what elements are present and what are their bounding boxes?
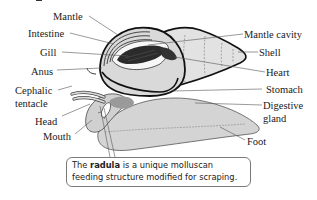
label-mantle: Mantle: [53, 11, 83, 22]
label-mantle-cavity: Mantle cavity: [244, 29, 302, 40]
label-intestine: Intestine: [28, 28, 64, 39]
label-cephalic: Cephalic: [15, 85, 52, 96]
label-head: Head: [35, 116, 57, 127]
label-tentacle: tentacle: [15, 98, 48, 109]
callout-bold-term: radula: [90, 160, 120, 170]
label-mouth: Mouth: [43, 131, 71, 142]
callout-pre: The: [72, 160, 90, 170]
label-gland: gland: [263, 113, 286, 124]
label-heart: Heart: [266, 67, 289, 78]
label-shell: Shell: [259, 47, 281, 58]
label-gill: Gill: [40, 47, 56, 58]
label-stomach: Stomach: [266, 84, 303, 95]
cropped-text-fragment: [36, 0, 42, 1]
label-anus: Anus: [31, 66, 53, 77]
radula-callout: The radula is a unique molluscan feeding…: [66, 157, 251, 187]
label-digestive: Digestive: [263, 100, 303, 111]
label-foot: Foot: [247, 136, 266, 147]
